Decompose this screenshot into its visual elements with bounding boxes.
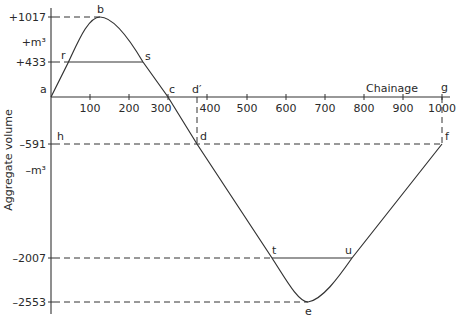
point-label-r: r [61,49,66,62]
x-tick-900: 900 [393,102,414,115]
x-tick-300: 300 [151,102,172,115]
dashed-guides [54,17,442,302]
y-tick-1017: +1017 [9,11,46,24]
y-tick-433: +433 [16,56,46,69]
mass-haul-diagram: 100 200 300 400 500 600 700 800 900 1000… [0,0,459,323]
y-unit-negative: –m³ [25,164,46,177]
point-label-d: d [200,130,207,143]
point-label-h: h [57,130,64,143]
x-tick-800: 800 [354,102,375,115]
point-label-s: s [145,50,151,63]
point-label-a: a [40,83,47,96]
x-tick-700: 700 [315,102,336,115]
point-label-b: b [97,3,104,16]
x-tick-100: 100 [80,102,101,115]
x-tick-400: 400 [200,102,221,115]
point-label-e: e [305,305,312,318]
x-tick-500: 500 [237,102,258,115]
point-label-d-prime: d′ [192,83,202,96]
y-tick-minus-2007: –2007 [13,252,47,265]
point-label-g: g [441,81,448,94]
x-tick-labels: 100 200 300 400 500 600 700 800 900 1000 [80,102,457,115]
mass-haul-curve [51,17,442,302]
y-tick-minus-2553: –2553 [13,296,47,309]
point-label-f: f [445,130,450,143]
point-label-u: u [345,244,352,257]
y-unit-positive: +m³ [22,36,46,49]
point-label-c: c [169,83,175,96]
point-labels: a b r s c d′ d h t u e f g [40,3,450,318]
x-tick-600: 600 [276,102,297,115]
point-label-t: t [272,244,277,257]
x-tick-200: 200 [119,102,140,115]
x-axis-title: Chainage [366,82,418,95]
y-tick-minus-591: –591 [20,138,47,151]
y-axis-title: Aggregate volume [2,109,15,211]
